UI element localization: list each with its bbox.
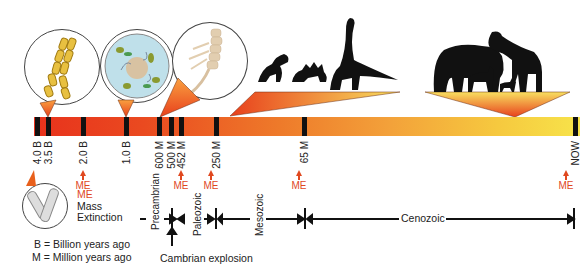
era-mesozoic: Mesozoic: [254, 194, 265, 236]
era-precambrian: Precambrian: [150, 173, 161, 230]
cambrian-explosion-label: Cambrian explosion: [160, 252, 253, 264]
era-spans: [0, 0, 584, 274]
era-paleozoic: Paleozoic: [192, 193, 203, 236]
era-cenozoic: Cenozoic: [401, 212, 445, 224]
